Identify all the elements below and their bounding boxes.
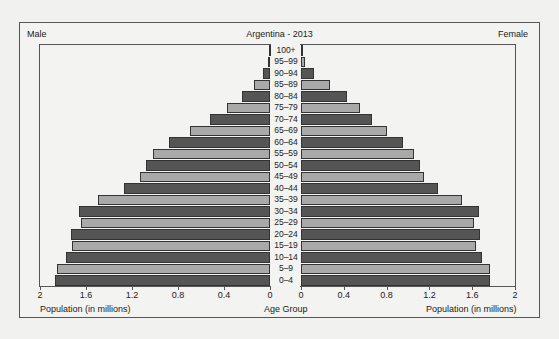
age-group-label: 60–64 <box>271 137 301 148</box>
male-bar <box>153 149 270 160</box>
female-axis-label: Population (in millions) <box>426 304 517 314</box>
female-bar <box>301 252 482 263</box>
x-tick-label: 2 <box>503 290 527 300</box>
female-bar <box>301 137 403 148</box>
age-group-label: 85–89 <box>271 79 301 90</box>
male-bar <box>254 80 270 91</box>
male-bar <box>124 183 270 194</box>
age-group-label: 100+ <box>271 45 301 56</box>
x-tick-label: 0.4 <box>332 290 356 300</box>
male-axis-label: Population (in millions) <box>40 304 131 314</box>
age-group-label: 50–54 <box>271 160 301 171</box>
female-bar <box>301 126 387 137</box>
x-tick-mark <box>270 287 271 290</box>
age-group-label: 90–94 <box>271 68 301 79</box>
male-bar <box>66 252 270 263</box>
age-group-label: 20–24 <box>271 229 301 240</box>
female-bar <box>301 229 480 240</box>
x-tick-label: 2 <box>28 290 52 300</box>
female-bar <box>301 172 424 183</box>
male-bar <box>242 91 270 102</box>
x-tick-mark <box>178 287 179 290</box>
male-bar <box>146 160 270 171</box>
female-bar <box>301 57 305 68</box>
female-bar <box>301 160 420 171</box>
age-group-label: 80–84 <box>271 91 301 102</box>
male-bar <box>55 275 270 286</box>
female-bar <box>301 183 438 194</box>
x-tick-label: 0 <box>289 290 313 300</box>
x-tick-mark <box>515 287 516 290</box>
female-bar <box>301 241 476 252</box>
male-bar <box>190 126 271 137</box>
x-tick-label: 1.2 <box>417 290 441 300</box>
male-bar <box>79 206 270 217</box>
male-bar <box>71 229 270 240</box>
x-tick-mark <box>387 287 388 290</box>
x-tick-label: 0.8 <box>375 290 399 300</box>
x-tick-mark <box>86 287 87 290</box>
age-group-label: 5–9 <box>271 263 301 274</box>
age-group-label: 0–4 <box>271 275 301 286</box>
male-bar <box>98 195 271 206</box>
age-group-label: 15–19 <box>271 240 301 251</box>
female-bar <box>301 103 360 114</box>
x-tick-mark <box>40 287 41 290</box>
x-tick-mark <box>344 287 345 290</box>
male-bar <box>268 57 270 68</box>
x-tick-label: 1.2 <box>120 290 144 300</box>
x-tick-mark <box>301 287 302 290</box>
age-group-label: 40–44 <box>271 183 301 194</box>
age-group-label: 55–59 <box>271 148 301 159</box>
female-bar <box>301 218 474 229</box>
age-group-label: 95–99 <box>271 56 301 67</box>
male-bar <box>140 172 270 183</box>
female-bar <box>301 68 314 79</box>
age-group-label: 70–74 <box>271 114 301 125</box>
x-tick-mark <box>224 287 225 290</box>
female-bar <box>301 149 414 160</box>
male-bar <box>227 103 270 114</box>
x-tick-label: 0.4 <box>212 290 236 300</box>
x-tick-label: 1.6 <box>74 290 98 300</box>
age-group-label: 25–29 <box>271 217 301 228</box>
male-bar <box>263 68 270 79</box>
x-tick-mark <box>472 287 473 290</box>
female-bar <box>301 80 330 91</box>
female-bar <box>301 206 479 217</box>
female-bar <box>301 195 462 206</box>
x-tick-label: 1.6 <box>460 290 484 300</box>
male-bar <box>81 218 270 229</box>
male-bar <box>169 137 270 148</box>
age-group-label: 65–69 <box>271 125 301 136</box>
x-tick-label: 0.8 <box>166 290 190 300</box>
age-group-label: 10–14 <box>271 252 301 263</box>
female-label: Female <box>498 29 528 39</box>
female-bar <box>301 45 303 56</box>
female-bar <box>301 275 490 286</box>
female-bar <box>301 114 372 125</box>
x-tick-label: 0 <box>258 290 282 300</box>
age-group-label: 30–34 <box>271 206 301 217</box>
chart-title: Argentina - 2013 <box>0 29 559 39</box>
male-bar <box>72 241 270 252</box>
male-bar <box>210 114 270 125</box>
male-bar <box>57 264 270 275</box>
age-group-label: Age Group <box>264 304 308 314</box>
x-tick-mark <box>429 287 430 290</box>
female-bar <box>301 91 347 102</box>
female-bar <box>301 264 490 275</box>
age-group-label: 35–39 <box>271 194 301 205</box>
x-tick-mark <box>132 287 133 290</box>
age-group-label: 75–79 <box>271 102 301 113</box>
age-group-label: 45–49 <box>271 171 301 182</box>
